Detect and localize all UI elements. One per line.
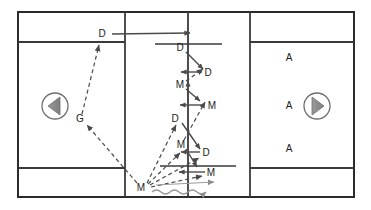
player-marker-M3: M: [177, 140, 185, 150]
player-marker-A3: A: [286, 144, 293, 154]
right-goal-icon: [304, 93, 330, 119]
player-marker-D4: D: [171, 114, 178, 124]
player-marker-A1: A: [286, 53, 293, 63]
player-marker-A2: A: [286, 101, 293, 111]
player-marker-D5: D: [202, 148, 209, 158]
player-marker-M5: M: [137, 183, 145, 193]
field-svg: [0, 0, 371, 210]
play-diagram: D D D M M D M D M M G A A A: [0, 0, 371, 210]
player-marker-M1: M: [176, 80, 184, 90]
player-marker-D1: D: [98, 29, 105, 39]
player-marker-M4: M: [207, 168, 215, 178]
player-marker-D3: D: [204, 68, 211, 78]
player-marker-M2: M: [208, 101, 216, 111]
player-marker-D2: D: [176, 43, 183, 53]
player-marker-G1: G: [76, 114, 84, 124]
run-D1-to-center: [112, 33, 190, 34]
left-goal-icon: [42, 93, 68, 119]
